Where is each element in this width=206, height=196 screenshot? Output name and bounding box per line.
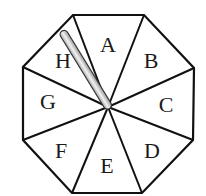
sector-label-c: C — [159, 92, 174, 117]
sector-label-h: H — [55, 48, 71, 73]
octagon-spinner: A B C D E F G H — [0, 0, 206, 196]
sector-label-g: G — [40, 89, 56, 114]
sector-label-b: B — [144, 48, 159, 73]
sector-label-d: D — [144, 138, 160, 163]
sector-label-a: A — [100, 32, 116, 57]
sector-label-f: F — [55, 138, 67, 163]
sector-label-e: E — [100, 153, 113, 178]
